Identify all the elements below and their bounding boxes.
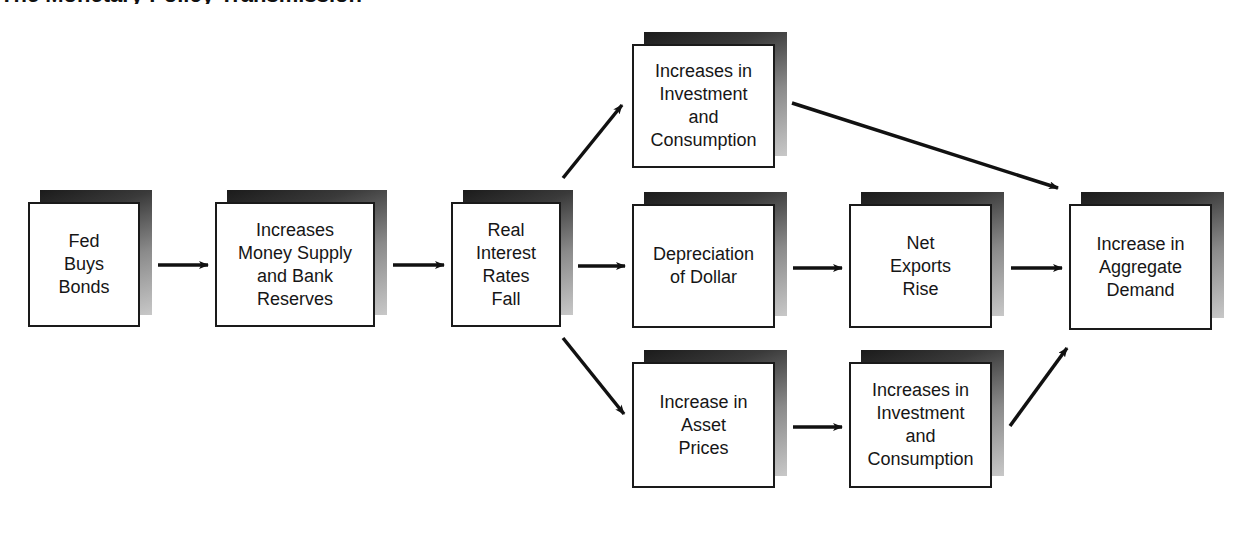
arrow-rates-to-assets: [563, 338, 624, 414]
arrow-rates-to-investment-top: [563, 105, 622, 178]
arrows-layer: [0, 0, 1250, 535]
arrow-investment-top-to-demand: [792, 103, 1058, 188]
arrow-investment-bottom-to-demand: [1010, 348, 1067, 426]
